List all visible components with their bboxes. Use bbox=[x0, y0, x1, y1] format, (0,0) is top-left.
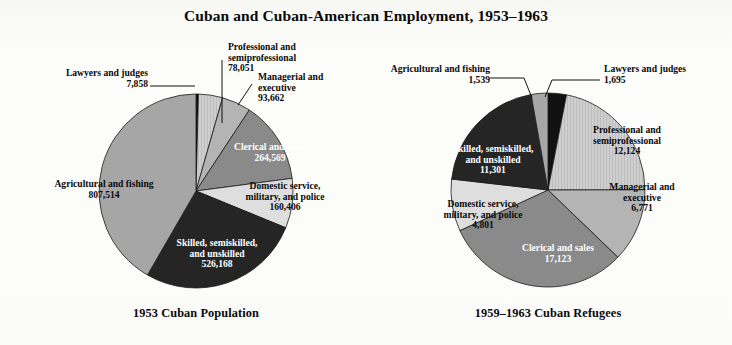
slice-label-agricultural-and-fishing-left: Agricultural and fishing 807,514 bbox=[33, 179, 175, 200]
callout-lawyers-and-judges-right: Lawyers and judges 1,695 bbox=[604, 64, 726, 85]
pie-caption-left: 1953 Cuban Population bbox=[96, 306, 296, 321]
pie-caption-right: 1959–1963 Cuban Refugees bbox=[448, 306, 648, 321]
callout-professional-and-semiprofessional-left: Professional and semiprofessional 78,051 bbox=[228, 42, 358, 74]
slice-label-clerical-and-sales-left: Clerical and sales 264,569 bbox=[212, 142, 328, 163]
leader-agricultural-right bbox=[490, 78, 532, 98]
callout-managerial-and-executive-left: Managerial and executive 93,662 bbox=[258, 72, 378, 104]
callout-lawyers-and-judges-left: Lawyers and judges 7,858 bbox=[28, 68, 148, 89]
pie-charts-svg: Lawyers and judges: 7,858Professional an… bbox=[0, 0, 732, 345]
slice-label-domestic-service-right: Domestic service, military, and police 4… bbox=[420, 199, 546, 231]
leader-managerial-left bbox=[238, 84, 252, 105]
slice-label-clerical-and-sales-right: Clerical and sales 17,123 bbox=[500, 243, 616, 264]
callout-agricultural-and-fishing-right: Agricultural and fishing 1,539 bbox=[368, 64, 490, 85]
employment-pie-figure: Cuban and Cuban-American Employment, 195… bbox=[0, 0, 732, 345]
slice-label-professional-and-semiprofessional-right: Professional and semiprofessional 12,124 bbox=[566, 125, 688, 157]
slice-label-skilled-semiskilled-unskilled-left: Skilled, semiskilled, and unskilled 526,… bbox=[152, 238, 282, 270]
slice-label-domestic-service-left: Domestic service, military, and police 1… bbox=[222, 181, 348, 213]
slice-label-skilled-semiskilled-unskilled-right: Skilled, semiskilled, and unskilled 11,3… bbox=[428, 144, 558, 176]
slice-label-managerial-and-executive-right: Managerial and executive 6,771 bbox=[584, 182, 700, 214]
